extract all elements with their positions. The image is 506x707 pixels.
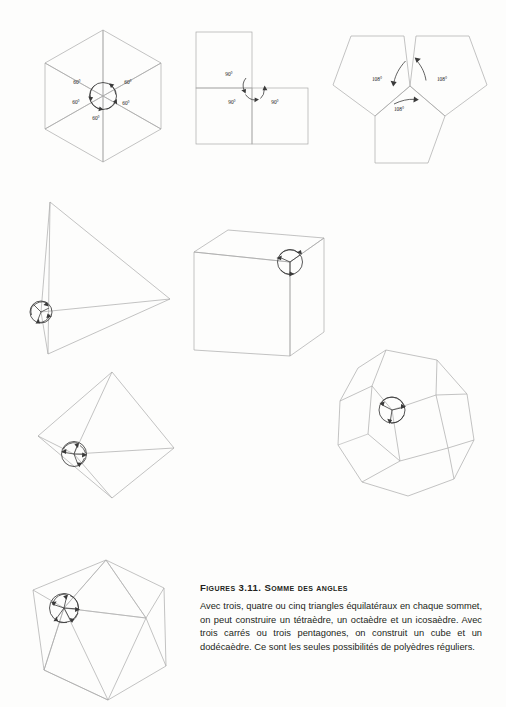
vertex-angle-marker xyxy=(50,594,81,624)
figure-pentagons-net: 108° 108° 108° xyxy=(318,28,496,173)
figure-dodecahedron xyxy=(332,348,482,500)
angle-annotation-group: 60° 60° 60° 60° 60° xyxy=(72,79,132,121)
squares-outline xyxy=(196,32,308,144)
angle-label: 108° xyxy=(372,76,382,82)
angle-label: 90° xyxy=(228,99,236,105)
angle-label: 60° xyxy=(124,79,132,85)
vertex-angle-marker xyxy=(61,442,87,468)
angle-label: 90° xyxy=(225,71,233,77)
caption-title: Figures 3.11. Somme des angles xyxy=(200,582,482,593)
angle-label: 90° xyxy=(271,99,279,105)
dodecahedron-outline xyxy=(338,350,474,496)
vertex-angle-marker xyxy=(379,397,406,424)
triangles-outline xyxy=(45,30,161,162)
caption-body: Avec trois, quatre ou cinq triangles équ… xyxy=(200,600,482,655)
figure-squares-net: 90° 90° 90° xyxy=(196,30,318,160)
angle-label: 60° xyxy=(92,115,100,121)
figure-octahedron xyxy=(36,372,176,500)
octahedron-outline xyxy=(38,372,174,498)
angle-label: 60° xyxy=(122,100,130,106)
icosahedron-outline xyxy=(33,560,166,700)
figure-caption: Figures 3.11. Somme des angles Avec troi… xyxy=(200,582,482,655)
figure-icosahedron xyxy=(28,558,188,704)
cube-outline xyxy=(194,230,324,356)
angle-label: 108° xyxy=(394,106,404,112)
figure-tetrahedron xyxy=(18,196,183,356)
angle-label: 60° xyxy=(72,99,80,105)
figure-cube xyxy=(190,228,330,358)
tetrahedron-outline xyxy=(41,202,170,354)
vertex-angle-marker xyxy=(277,250,303,277)
angle-label: 60° xyxy=(73,79,81,85)
figure-sheet: 60° 60° 60° 60° 60° 90° 90° 90° xyxy=(0,0,506,707)
angle-label: 108° xyxy=(437,76,447,82)
figure-equilateral-triangles-net: 60° 60° 60° 60° 60° xyxy=(14,28,194,178)
